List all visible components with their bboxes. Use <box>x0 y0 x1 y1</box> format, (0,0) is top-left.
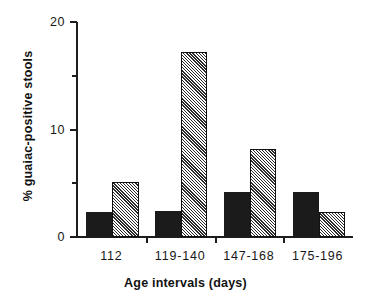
x-axis-tick <box>283 236 285 243</box>
bar-solid-147-168 <box>224 192 250 237</box>
bar-solid-175-196 <box>293 192 319 237</box>
x-axis-tick-label: 147-168 <box>223 249 274 263</box>
y-axis-tick-label: 10 <box>50 123 65 137</box>
x-axis-tick <box>146 236 148 243</box>
x-axis-tick-label: 175-196 <box>292 249 343 263</box>
x-axis-tick <box>215 236 217 243</box>
plot-area <box>77 22 352 237</box>
x-axis-tick-label: 119-140 <box>155 249 206 263</box>
y-axis-minor-tick <box>72 182 77 184</box>
bar-hatched-147-168 <box>250 149 276 237</box>
y-axis-tick <box>70 21 77 23</box>
bar-solid-119-140 <box>155 211 181 237</box>
bar-hatched-112 <box>112 182 138 237</box>
y-axis-tick-label: 20 <box>50 15 65 29</box>
y-axis-tick-label: 0 <box>58 230 65 244</box>
y-axis-tick <box>70 236 77 238</box>
x-axis-title: Age intervals (days) <box>0 276 371 290</box>
bar-hatched-175-196 <box>319 212 345 237</box>
chart-figure: % guaiac-positive stools Age intervals (… <box>0 0 371 305</box>
bar-hatched-119-140 <box>181 52 207 237</box>
y-axis-title: % guaiac-positive stools <box>21 26 35 226</box>
y-axis-tick <box>70 129 77 131</box>
y-axis-minor-tick <box>72 75 77 77</box>
bar-solid-112 <box>86 212 112 237</box>
x-axis-tick-label: 112 <box>100 249 122 263</box>
